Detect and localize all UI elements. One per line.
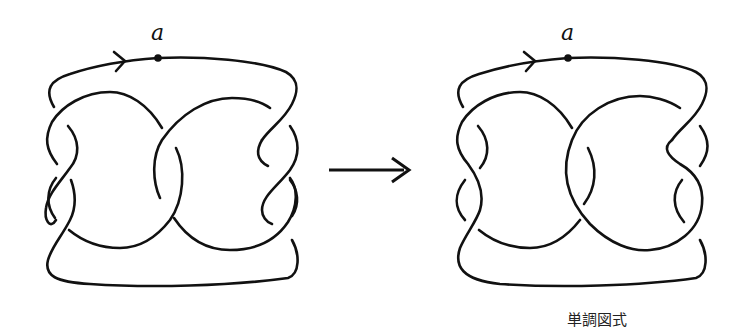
basepoint-dot <box>564 54 572 62</box>
middle-lower-right <box>174 178 296 250</box>
basepoint-label: a <box>561 20 574 45</box>
left-twist-3 <box>47 180 297 286</box>
middle-inner-arc <box>584 148 594 204</box>
left-twist-inner-2 <box>457 180 465 220</box>
monotone-diagram-caption: 単調図式 <box>557 308 637 329</box>
left-lobe-upper <box>457 92 705 286</box>
left-lobe-lower <box>69 148 182 248</box>
right-twist-1 <box>258 140 268 166</box>
left-lobe-upper <box>47 92 162 164</box>
right-twist-inner-2 <box>675 180 684 222</box>
basepoint-label: a <box>151 20 164 45</box>
left-twist-2 <box>48 178 56 218</box>
left-twist-inner-1 <box>478 126 487 168</box>
right-twist-2 <box>262 126 298 224</box>
basepoint-dot <box>154 54 162 62</box>
middle-over-strand <box>154 98 270 198</box>
right-knot-diagram-monotone: a <box>457 20 708 286</box>
left-lobe-lower <box>479 220 580 248</box>
transformation-arrow <box>329 158 409 182</box>
right-twist-3 <box>290 180 297 216</box>
right-lobe-big <box>566 96 702 250</box>
right-twist-inner-1 <box>700 126 708 166</box>
knot-diagram-figure: a a <box>0 0 748 336</box>
top-arc <box>458 58 706 140</box>
left-knot-diagram: a <box>46 20 298 286</box>
